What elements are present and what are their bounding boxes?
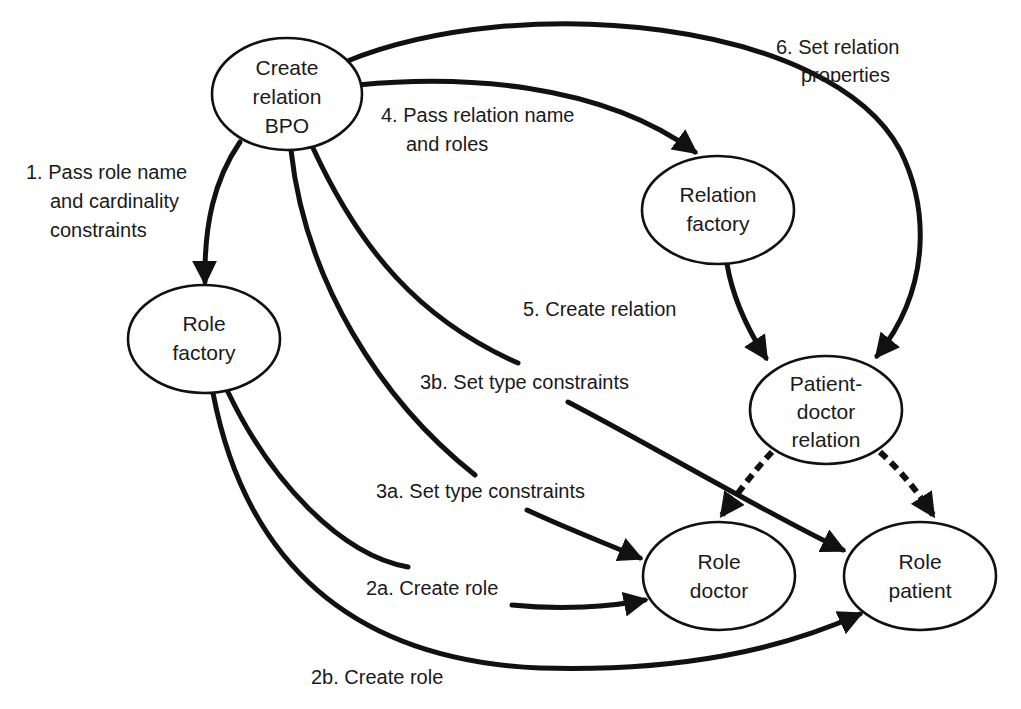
diagram-canvas: Create relation BPO Relation factory Rol… — [0, 0, 1021, 709]
node-label-line: factory — [686, 212, 750, 235]
node-role-doctor[interactable]: Role doctor — [643, 522, 795, 630]
edge-label-2b: 2b. Create role — [311, 666, 443, 688]
edge-3b-set-type-constraints — [313, 148, 518, 363]
edge-label-2a: 2a. Create role — [366, 577, 498, 599]
node-relation-factory[interactable]: Relation factory — [642, 156, 794, 264]
node-role-patient[interactable]: Role patient — [844, 522, 996, 630]
node-label-line: Relation — [679, 183, 756, 206]
edge-label-line: 5. Create relation — [523, 298, 676, 320]
edge-label-5: 5. Create relation — [523, 298, 676, 320]
edge-label-line: 6. Set relation — [776, 36, 899, 58]
node-label-line: Create — [255, 56, 318, 79]
edge-dashed-to-role-patient — [880, 452, 933, 515]
node-patient-doctor-relation[interactable]: Patient- doctor relation — [750, 356, 902, 464]
edge-label-1: 1. Pass role name and cardinality constr… — [26, 161, 187, 241]
edge-3a-set-type-constraints — [291, 150, 475, 475]
edge-dashed-to-role-doctor — [722, 452, 772, 515]
edge-label-3b: 3b. Set type constraints — [420, 371, 629, 393]
node-label-line: patient — [888, 579, 951, 602]
edge-2a-arrow-segment — [512, 600, 645, 607]
edge-label-line: 3a. Set type constraints — [376, 480, 585, 502]
edge-5-create-relation — [727, 264, 766, 358]
node-label-line: doctor — [797, 400, 855, 423]
node-role-factory[interactable]: Role factory — [128, 285, 280, 393]
edge-label-line: 1. Pass role name — [26, 161, 187, 183]
edge-1-pass-role-name — [205, 142, 240, 282]
node-label-line: Role — [697, 550, 740, 573]
node-create-relation-bpo[interactable]: Create relation BPO — [212, 38, 362, 150]
edge-label-line: 2b. Create role — [311, 666, 443, 688]
edge-label-line: and cardinality — [50, 190, 179, 212]
edge-label-3a: 3a. Set type constraints — [376, 480, 585, 502]
edge-label-line: 3b. Set type constraints — [420, 371, 629, 393]
edge-label-line: and roles — [406, 133, 488, 155]
node-label-line: BPO — [265, 114, 309, 137]
edge-3a-arrow-segment — [527, 510, 640, 558]
edge-label-line: properties — [801, 64, 890, 86]
node-label-line: Role — [898, 550, 941, 573]
edge-label-line: 2a. Create role — [366, 577, 498, 599]
node-label-line: relation — [792, 428, 861, 451]
edge-label-4: 4. Pass relation name and roles — [381, 104, 574, 155]
edge-label-line: 4. Pass relation name — [381, 104, 574, 126]
node-label-line: factory — [172, 341, 236, 364]
node-label-line: relation — [253, 85, 322, 108]
node-label-line: Patient- — [790, 372, 862, 395]
edge-label-6: 6. Set relation properties — [776, 36, 899, 86]
edge-label-line: constraints — [50, 219, 147, 241]
node-label-line: doctor — [690, 579, 748, 602]
node-label-line: Role — [182, 312, 225, 335]
